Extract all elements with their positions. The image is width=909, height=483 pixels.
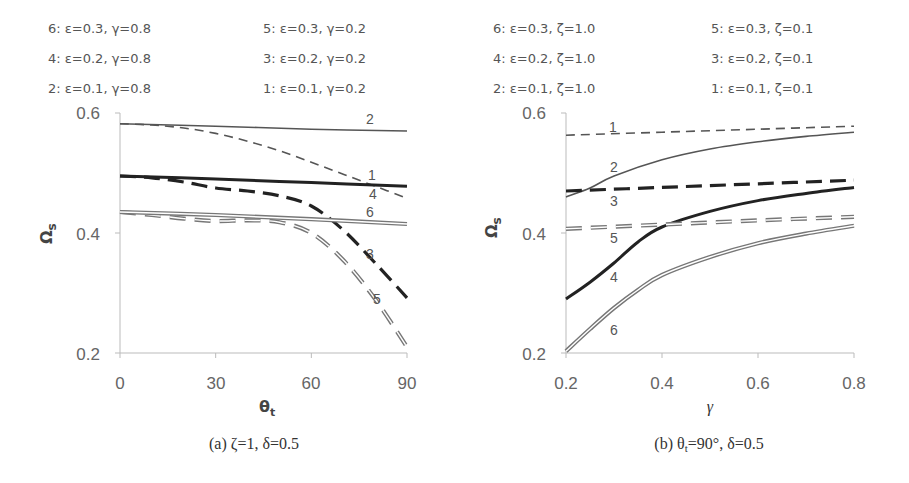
legend-a-4: 4: ε=0.2, γ=0.8: [48, 51, 151, 66]
ytick-b-0.6: 0.6: [522, 104, 546, 123]
xtick-a-0: 0: [115, 374, 124, 393]
series-a-5-inner: [120, 212, 407, 347]
xtick-a-60: 60: [302, 374, 321, 393]
xlabel-a-text: θt: [259, 397, 275, 419]
svg-text:Ωs: Ωs: [37, 223, 59, 244]
curve-label-b-1: 1: [609, 119, 617, 135]
legend-b-3: 3: ε=0.2, ζ=0.1: [711, 51, 813, 66]
xlabel-b: γ: [707, 398, 714, 416]
curve-label-b-3: 3: [610, 193, 618, 209]
curve-label-a-5: 5: [373, 291, 381, 307]
legend-a-2: 2: ε=0.1, γ=0.8: [48, 81, 151, 96]
curve-label-b-5: 5: [610, 230, 618, 246]
xtick-b-0.2: 0.2: [554, 374, 578, 393]
xtick-a-90: 90: [398, 374, 417, 393]
legend-b-2: 2: ε=0.1, ζ=1.0: [493, 81, 595, 96]
series-a-3: [120, 176, 407, 298]
ytick-b-0.4: 0.4: [522, 225, 546, 244]
ytick-a-0.4: 0.4: [76, 225, 100, 244]
ylabel-b: Ωs: [482, 217, 504, 238]
legend-b-5: 5: ε=0.3, ζ=0.1: [711, 21, 813, 36]
curve-label-a-1: 1: [368, 167, 376, 183]
svg-text:Ωs: Ωs: [482, 217, 504, 238]
legend-b-1: 1: ε=0.1, ζ=0.1: [711, 81, 813, 96]
chart-a: 6: ε=0.3, γ=0.8 5: ε=0.3, γ=0.2 4: ε=0.2…: [37, 21, 416, 453]
xtick-a-30: 30: [207, 374, 226, 393]
legend-a-3: 3: ε=0.2, γ=0.2: [263, 51, 366, 66]
legend-a-1: 1: ε=0.1, γ=0.2: [263, 81, 366, 96]
legend-a-5: 5: ε=0.3, γ=0.2: [263, 21, 366, 36]
xlabel-a: θt: [259, 397, 275, 419]
caption-a: (a) ζ=1, δ=0.5: [209, 435, 299, 453]
xtick-b-0.4: 0.4: [650, 374, 674, 393]
curve-label-a-3: 3: [366, 246, 374, 262]
ylabel-a: Ωs: [37, 223, 59, 244]
curve-label-b-2: 2: [610, 159, 618, 175]
series-a-1: [120, 124, 407, 198]
caption-b: (b) θt=90°, δ=0.5: [654, 435, 763, 454]
legend-b-6: 6: ε=0.3, ζ=1.0: [493, 21, 595, 36]
curve-label-a-2: 2: [366, 111, 374, 127]
ytick-a-0.6: 0.6: [76, 104, 100, 123]
series-b-5-inner: [566, 217, 854, 229]
curve-label-a-6: 6: [366, 204, 374, 220]
ytick-a-0.2: 0.2: [76, 345, 100, 364]
series-a-5: [120, 212, 407, 347]
legend-a-6: 6: ε=0.3, γ=0.8: [48, 21, 151, 36]
series-a-2: [120, 124, 407, 131]
series-a-4: [120, 176, 407, 186]
ytick-b-0.2: 0.2: [522, 345, 546, 364]
xtick-b-0.6: 0.6: [746, 374, 770, 393]
curve-label-b-4: 4: [610, 269, 618, 285]
xtick-b-0.8: 0.8: [842, 374, 866, 393]
series-b-5: [566, 217, 854, 229]
curve-label-b-6: 6: [610, 322, 618, 338]
series-b-3: [566, 180, 854, 191]
legend-b-4: 4: ε=0.2, ζ=1.0: [493, 51, 595, 66]
figure: 6: ε=0.3, γ=0.8 5: ε=0.3, γ=0.2 4: ε=0.2…: [0, 0, 909, 483]
curve-label-a-4: 4: [369, 186, 377, 202]
chart-b: 6: ε=0.3, ζ=1.0 5: ε=0.3, ζ=0.1 4: ε=0.2…: [482, 21, 866, 454]
